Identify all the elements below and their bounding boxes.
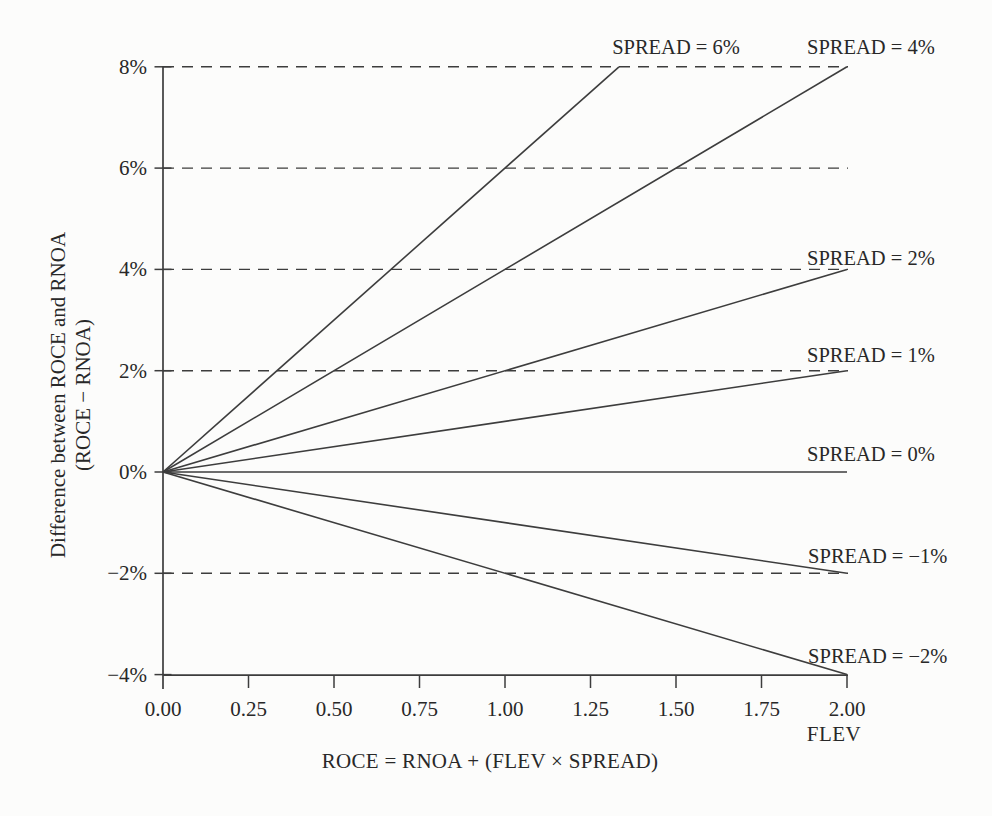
x-tick-label-2.00: 2.00	[829, 697, 866, 721]
x-tick-label-1.00: 1.00	[487, 697, 524, 721]
series-label-0pct: SPREAD = 0%	[807, 443, 935, 465]
series-label-neg1pct: SPREAD = −1%	[808, 545, 947, 567]
y-tick-label-2pct: 2%	[119, 359, 147, 383]
y-tick-label-neg2pct: −2%	[107, 561, 147, 585]
figure-page: 8%6%4%2%0%−2%−4%0.000.250.500.751.001.25…	[0, 0, 992, 816]
series-label-6pct: SPREAD = 6%	[612, 36, 740, 58]
y-axis-title-line2: (ROCE − RNOA)	[71, 195, 96, 595]
x-tick-label-1.75: 1.75	[743, 697, 780, 721]
x-tick-label-1.25: 1.25	[572, 697, 609, 721]
series-label-2pct: SPREAD = 2%	[807, 247, 935, 269]
x-tick-label-0.25: 0.25	[230, 697, 267, 721]
spread-line-1pct	[163, 371, 847, 472]
x-tick-label-0.50: 0.50	[316, 697, 353, 721]
x-tick-label-0.00: 0.00	[145, 697, 182, 721]
y-tick-label-0pct: 0%	[119, 460, 147, 484]
series-label-4pct: SPREAD = 4%	[807, 36, 935, 58]
y-axis-title: Difference between ROCE and RNOA (ROCE −…	[46, 195, 96, 595]
chart-canvas: 8%6%4%2%0%−2%−4%0.000.250.500.751.001.25…	[0, 0, 992, 816]
formula-caption: ROCE = RNOA + (FLEV × SPREAD)	[150, 749, 830, 774]
y-tick-label-4pct: 4%	[119, 257, 147, 281]
y-tick-label-neg4pct: −4%	[107, 663, 147, 687]
series-label-neg2pct: SPREAD = −2%	[808, 645, 947, 667]
series-label-1pct: SPREAD = 1%	[807, 344, 935, 366]
y-tick-label-6pct: 6%	[119, 156, 147, 180]
spread-line-neg1pct	[163, 472, 847, 573]
x-tick-label-0.75: 0.75	[401, 697, 438, 721]
x-tick-label-1.50: 1.50	[658, 697, 695, 721]
y-tick-label-8pct: 8%	[119, 55, 147, 79]
y-axis-title-line1: Difference between ROCE and RNOA	[46, 195, 71, 595]
x-axis-title: FLEV	[800, 722, 868, 747]
